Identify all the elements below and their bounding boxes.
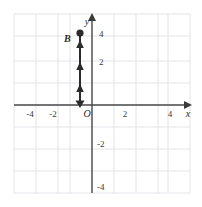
y-tick-label-2: 2 — [99, 57, 104, 67]
point-label-b: B — [63, 33, 71, 44]
graph-screenshot: B -4 -2 2 4 4 2 -2 -4 O x y — [0, 0, 202, 207]
x-tick-label-4: 4 — [168, 109, 173, 119]
y-tick-label-4: 4 — [99, 29, 104, 39]
y-tick-label--2: -2 — [97, 139, 105, 149]
point-marker-b — [76, 29, 83, 36]
x-tick-label--2: -2 — [49, 109, 57, 119]
plot-background — [14, 14, 190, 193]
y-axis-label: y — [84, 16, 90, 27]
y-tick-label--4: -4 — [97, 182, 105, 192]
coordinate-plane-graph: B -4 -2 2 4 4 2 -2 -4 O x y — [0, 0, 202, 207]
origin-label: O — [83, 108, 90, 119]
x-axis-label: x — [185, 108, 191, 119]
x-tick-label-2: 2 — [123, 109, 128, 119]
x-tick-label--4: -4 — [26, 109, 34, 119]
